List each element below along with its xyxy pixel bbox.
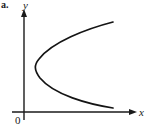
parabola-curve bbox=[35, 22, 113, 108]
origin-label: 0 bbox=[15, 115, 21, 126]
x-axis-arrowhead bbox=[129, 109, 137, 115]
x-axis-label: x bbox=[139, 107, 144, 118]
coordinate-plot bbox=[0, 0, 151, 130]
y-axis-label: y bbox=[23, 0, 28, 11]
math-figure-parabola: a. y x 0 bbox=[0, 0, 151, 130]
problem-item-label: a. bbox=[1, 0, 9, 10]
